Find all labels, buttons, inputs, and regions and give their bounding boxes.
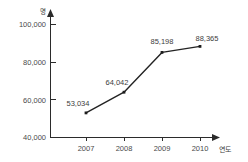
x-axis-tick-label-2008: 2008 [116,144,133,153]
data-point-2010 [199,45,202,48]
data-label-2010: 88,365 [196,34,219,43]
y-axis-tick-label-80000: 80,000 [23,58,46,67]
y-axis-unit-label: 명 [40,7,46,16]
data-label-2007: 53,034 [67,99,90,108]
x-axis-arrow-icon [212,134,220,141]
y-axis-ticks [51,25,57,100]
x-axis-tick-label-2007: 2007 [78,144,95,153]
y-axis-tick-label-100000: 100,000 [19,20,46,29]
data-point-2008 [123,91,126,94]
x-axis-name-label: 연도 [219,146,232,154]
x-axis-tick-label-2009: 2009 [154,144,171,153]
x-axis-ticks [86,138,200,142]
data-point-2009 [161,51,164,54]
y-axis-tick-label-40000: 40,000 [23,133,46,142]
x-axis-tick-label-2010: 2010 [192,144,209,153]
series-line-path [86,46,200,113]
chart-canvas: 100,000 80,000 60,000 40,000 명 2007 2008… [0,0,248,162]
line-chart-figure: 100,000 80,000 60,000 40,000 명 2007 2008… [0,0,248,162]
data-label-2009: 85,198 [151,37,174,46]
data-point-2007 [85,112,88,115]
y-axis-arrow-icon [47,9,54,17]
data-label-2008: 64,042 [106,78,129,87]
y-axis-tick-label-60000: 60,000 [23,96,46,105]
